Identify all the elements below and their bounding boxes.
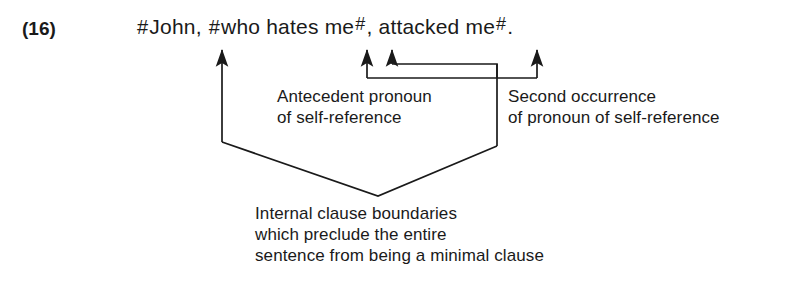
caption-second-line1: Second occurrence	[508, 86, 720, 107]
caption-internal-line3: sentence from being a minimal clause	[255, 245, 544, 266]
caption-antecedent-line1: Antecedent pronoun	[277, 86, 432, 107]
leader-antecedent-pronoun	[392, 64, 497, 78]
caption-internal-line2: which preclude the entire	[255, 224, 544, 245]
caption-second-occurrence: Second occurrence of pronoun of self-ref…	[508, 86, 720, 128]
caption-second-line2: of pronoun of self-reference	[508, 107, 720, 128]
caption-antecedent-pronoun: Antecedent pronoun of self-reference	[277, 86, 432, 128]
linguistics-example-figure: (16) #John, #who hates me#, attacked me#…	[0, 0, 800, 289]
caption-internal-clause-boundaries: Internal clause boundaries which preclud…	[255, 203, 544, 266]
caption-internal-line1: Internal clause boundaries	[255, 203, 544, 224]
caption-antecedent-line2: of self-reference	[277, 107, 432, 128]
v-connector-internal-boundaries	[222, 142, 497, 196]
